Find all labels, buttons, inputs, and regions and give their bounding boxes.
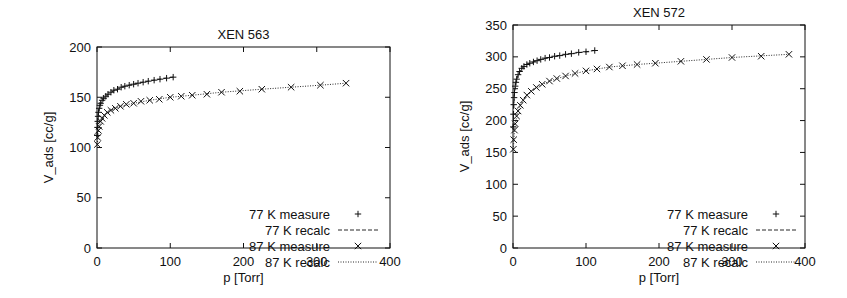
x-marker-icon [511,127,517,133]
x-tick-label: 0 [93,254,100,269]
x-axis-label: p [Torr] [639,270,679,285]
series-77-k-measure: 77 K measure [94,74,361,222]
chart-title: XEN 572 [633,5,685,20]
x-tick-label: 200 [648,254,670,269]
series-87-k-measure: 87 K measure [510,51,792,253]
x-marker-icon [515,108,521,114]
x-tick-label: 0 [509,254,516,269]
x-tick-label: 100 [159,254,181,269]
x-marker-icon [156,96,162,102]
y-tick-label: 300 [485,49,507,64]
x-marker-icon [652,60,658,66]
series-line [513,50,595,126]
plot-frame [513,25,805,248]
legend-label: 77 K recalc [265,223,331,238]
series-77-k-recalc: 77 K recalc [513,50,796,237]
legend-label: 87 K recalc [683,255,749,270]
legend-label: 77 K measure [667,207,748,222]
legend-label: 87 K recalc [265,255,331,270]
x-marker-icon [343,80,349,86]
chart-xen-572: XEN 572010020030040005010015020025030035… [457,5,816,285]
plus-marker-icon [515,71,521,77]
x-marker-icon [147,97,153,103]
y-tick-label: 100 [69,140,91,155]
chart-title: XEN 563 [217,27,269,42]
series-77-k-recalc: 77 K recalc [97,77,378,237]
series-77-k-measure: 77 K measure [510,47,779,221]
x-marker-icon [546,78,552,84]
legend-plus-icon [355,211,361,217]
x-marker-icon [218,89,224,95]
x-marker-icon [138,98,144,104]
series-line [513,54,789,149]
series-line [97,77,173,135]
plus-marker-icon [534,57,540,63]
legend-label: 77 K recalc [683,223,749,238]
x-marker-icon [123,101,129,107]
legend-label: 87 K measure [249,239,330,254]
chart-xen-563: XEN 5630100200300400050100150200p [Torr]… [41,27,401,285]
x-marker-icon [237,88,243,94]
x-marker-icon [511,136,517,142]
y-tick-label: 0 [84,241,91,256]
y-tick-label: 100 [485,177,507,192]
x-tick-label: 400 [794,254,816,269]
legend-label: 87 K measure [667,239,748,254]
y-tick-label: 0 [500,241,507,256]
y-tick-label: 150 [69,90,91,105]
x-tick-label: 100 [575,254,597,269]
y-tick-label: 200 [69,40,91,55]
y-tick-label: 350 [485,18,507,33]
y-tick-label: 50 [493,209,507,224]
x-axis-label: p [Torr] [223,270,263,285]
legend-label: 77 K measure [249,207,330,222]
y-tick-label: 250 [485,81,507,96]
plus-marker-icon [130,81,136,87]
x-marker-icon [554,75,560,81]
x-tick-label: 200 [233,254,255,269]
series-87-k-recalc: 87 K recalc [513,54,796,269]
x-marker-icon [678,58,684,64]
y-axis-label: V_ads [cc/g] [457,101,472,173]
x-marker-icon [117,103,123,109]
y-tick-label: 200 [485,113,507,128]
y-tick-label: 150 [485,145,507,160]
legend-plus-icon [773,211,779,217]
plot-frame [97,47,390,248]
x-marker-icon [189,92,195,98]
y-tick-label: 50 [77,190,91,205]
y-axis-label: V_ads [cc/g] [41,112,56,184]
x-marker-icon [583,68,589,74]
x-marker-icon [259,86,265,92]
series-87-k-recalc: 87 K recalc [97,83,378,269]
charts-figure: XEN 5630100200300400050100150200p [Torr]… [0,0,847,298]
x-tick-label: 400 [379,254,401,269]
x-marker-icon [204,91,210,97]
